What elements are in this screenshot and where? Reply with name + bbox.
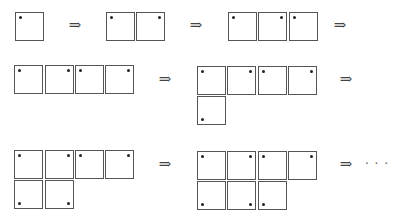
square-cell [105,65,134,94]
square-cell [75,150,104,179]
square-cell [228,12,257,41]
square-cell [14,180,43,209]
corner-dot-icon [67,69,70,72]
corner-dot-icon [262,203,265,206]
square-cell [288,66,317,95]
corner-dot-icon [293,16,296,19]
square-cell [289,12,318,41]
corner-dot-icon [262,70,265,73]
square-cell [105,150,134,179]
corner-dot-icon [262,155,265,158]
square-cell [197,96,226,125]
implies-arrow-icon: ⇒ [340,157,353,172]
corner-dot-icon [158,16,161,19]
corner-dot-icon [18,154,21,157]
corner-dot-icon [67,202,70,205]
square-cell [258,181,287,210]
square-cell [197,181,226,210]
corner-dot-icon [18,69,21,72]
square-cell [14,150,43,179]
corner-dot-icon [127,69,130,72]
square-cell [136,12,165,41]
square-cell [258,151,287,180]
square-cell [45,65,74,94]
corner-dot-icon [19,16,22,19]
implies-arrow-icon: ⇒ [334,18,347,33]
corner-dot-icon [201,203,204,206]
corner-dot-icon [67,154,70,157]
corner-dot-icon [249,203,252,206]
corner-dot-icon [79,69,82,72]
cell-growth-diagram: ⇒⇒⇒⇒⇒⇒⇒· · · [0,0,397,219]
square-cell [227,66,256,95]
square-cell [15,12,44,41]
corner-dot-icon [79,154,82,157]
square-cell [45,150,74,179]
square-cell [197,66,226,95]
square-cell [45,180,74,209]
square-cell [106,12,135,41]
continuation-ellipsis: · · · [365,158,389,170]
corner-dot-icon [201,118,204,121]
corner-dot-icon [310,155,313,158]
implies-arrow-icon: ⇒ [190,18,203,33]
implies-arrow-icon: ⇒ [159,72,172,87]
square-cell [258,66,287,95]
implies-arrow-icon: ⇒ [340,72,353,87]
square-cell [288,151,317,180]
implies-arrow-icon: ⇒ [159,157,172,172]
corner-dot-icon [310,70,313,73]
corner-dot-icon [127,154,130,157]
square-cell [258,12,287,41]
square-cell [227,151,256,180]
corner-dot-icon [280,16,283,19]
square-cell [227,181,256,210]
corner-dot-icon [249,70,252,73]
square-cell [197,151,226,180]
corner-dot-icon [232,16,235,19]
square-cell [75,65,104,94]
implies-arrow-icon: ⇒ [69,18,82,33]
corner-dot-icon [201,70,204,73]
corner-dot-icon [18,202,21,205]
corner-dot-icon [249,155,252,158]
corner-dot-icon [110,16,113,19]
square-cell [14,65,43,94]
corner-dot-icon [201,155,204,158]
